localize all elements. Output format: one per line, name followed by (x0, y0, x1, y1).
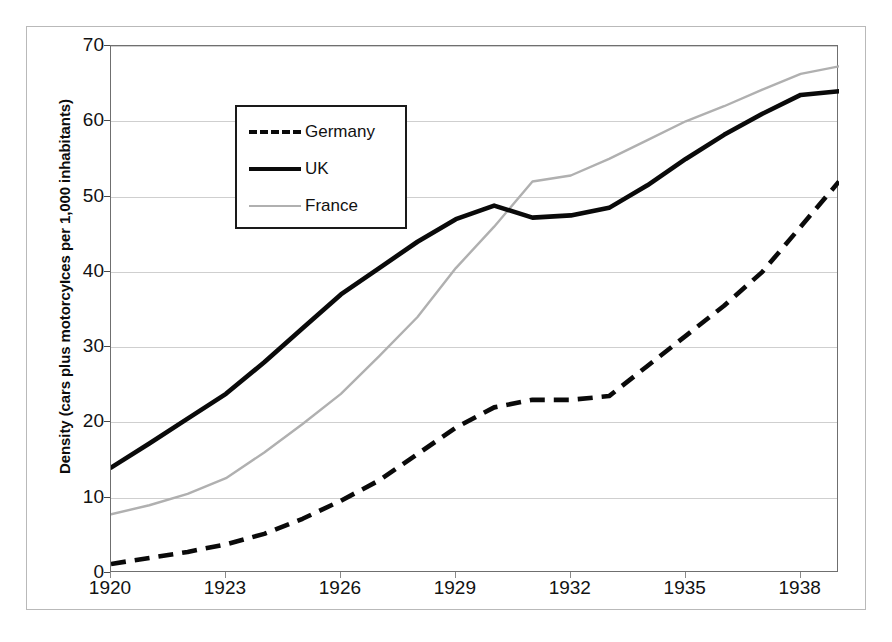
x-tick-label: 1920 (70, 578, 150, 597)
x-tick-label: 1938 (760, 578, 840, 597)
legend-swatch-uk-icon (249, 162, 301, 176)
x-tick-mark (225, 572, 226, 578)
legend-label-germany: Germany (305, 123, 375, 140)
x-axis-ticks: 1920192319261929193219351938 (110, 578, 838, 608)
chart-figure: Density (cars plus motorcyIces per 1,000… (0, 0, 892, 642)
x-tick-label: 1929 (415, 578, 495, 597)
x-tick-label: 1932 (530, 578, 610, 597)
chart-legend: Germany UK France (235, 105, 407, 229)
y-tick-label: 10 (46, 487, 104, 506)
series-germany (111, 182, 839, 564)
y-axis-ticks: 010203040506070 (42, 45, 104, 572)
legend-label-france: France (305, 197, 358, 214)
x-tick-mark (570, 572, 571, 578)
legend-item-france: France (237, 187, 405, 224)
x-tick-mark (800, 572, 801, 578)
y-tick-label: 50 (46, 186, 104, 205)
series-uk (111, 91, 839, 467)
legend-label-uk: UK (305, 160, 329, 177)
chart-plot-svg (111, 46, 839, 573)
y-tick-label: 30 (46, 336, 104, 355)
x-tick-label: 1923 (185, 578, 265, 597)
y-tick-label: 20 (46, 411, 104, 430)
legend-swatch-germany-icon (249, 125, 301, 139)
x-tick-mark (340, 572, 341, 578)
x-tick-label: 1935 (645, 578, 725, 597)
plot-area: Germany UK France (110, 45, 838, 572)
x-tick-mark (455, 572, 456, 578)
legend-item-uk: UK (237, 150, 405, 187)
y-tick-label: 40 (46, 261, 104, 280)
x-tick-mark (685, 572, 686, 578)
x-tick-label: 1926 (300, 578, 380, 597)
x-tick-mark (110, 572, 111, 578)
legend-swatch-france-icon (249, 199, 301, 213)
legend-item-germany: Germany (237, 113, 405, 150)
y-tick-label: 70 (46, 35, 104, 54)
y-tick-label: 60 (46, 110, 104, 129)
